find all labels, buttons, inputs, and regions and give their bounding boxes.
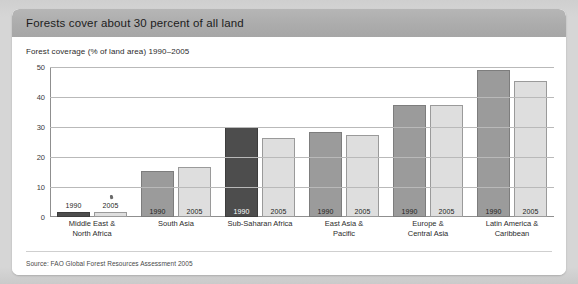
- bar[interactable]: 1990: [141, 171, 174, 218]
- bar[interactable]: 1990: [477, 70, 510, 217]
- bar-year-label: 1990: [226, 208, 257, 215]
- bar[interactable]: 2005: [178, 167, 211, 217]
- bar[interactable]: 2005: [262, 138, 295, 218]
- bars: 19902005: [386, 67, 470, 217]
- bars: 19902005: [470, 67, 554, 217]
- y-tick-label: 30: [37, 123, 45, 132]
- bar[interactable]: 2005: [514, 81, 547, 218]
- bars: 19902005: [134, 67, 218, 217]
- bar-group: 19902005: [218, 67, 302, 217]
- bar-year-label: 1990: [58, 202, 89, 209]
- bar-year-label: 2005: [263, 208, 294, 215]
- bar-group: 19902005: [386, 67, 470, 217]
- card-header: Forests cover about 30 percent of all la…: [12, 9, 566, 37]
- bar-year-label: 1990: [310, 208, 341, 215]
- bar[interactable]: 1990: [57, 212, 90, 217]
- category-label: South Asia: [134, 219, 218, 238]
- category-label: Europe & Central Asia: [386, 219, 470, 238]
- figure-card: Forests cover about 30 percent of all la…: [12, 9, 566, 275]
- bar-year-label: 1990: [478, 208, 509, 215]
- bar-groups: 1990200519902005199020051990200519902005…: [50, 67, 554, 217]
- bar[interactable]: 2005: [346, 135, 379, 217]
- gridline: [50, 67, 554, 68]
- bar-year-label: 2005: [347, 208, 378, 215]
- footer-divider: [26, 251, 552, 252]
- category-label: East Asia & Pacific: [302, 219, 386, 238]
- bar-year-label: 1990: [394, 208, 425, 215]
- bar-year-label: 2005: [515, 208, 546, 215]
- y-tick-label: 40: [37, 93, 45, 102]
- bar[interactable]: 1990: [393, 105, 426, 218]
- bars: 19902005: [218, 67, 302, 217]
- y-tick-label: 0: [41, 213, 45, 222]
- plot-area: 1990200519902005199020051990200519902005…: [50, 67, 554, 217]
- source-note: Source: FAO Global Forest Resources Asse…: [26, 260, 193, 267]
- scan-speck-mark: [109, 194, 113, 199]
- category-label: Sub-Saharan Africa: [218, 219, 302, 238]
- chart-subtitle: Forest coverage (% of land area) 1990–20…: [26, 47, 189, 56]
- page-backdrop: Forests cover about 30 percent of all la…: [0, 0, 578, 284]
- category-label: Middle East & North Africa: [50, 219, 134, 238]
- bar-year-label: 2005: [179, 208, 210, 215]
- y-tick-label: 20: [37, 153, 45, 162]
- gridline: [50, 187, 554, 188]
- bar[interactable]: 1990: [309, 132, 342, 217]
- bar[interactable]: 2005: [430, 105, 463, 218]
- bar-year-label: 1990: [142, 208, 173, 215]
- bar-group: 19902005: [50, 67, 134, 217]
- bar-group: 19902005: [302, 67, 386, 217]
- bars: 19902005: [302, 67, 386, 217]
- bar-group: 19902005: [470, 67, 554, 217]
- bar-chart: 01020304050 1990200519902005199020051990…: [26, 67, 554, 235]
- bar-year-label: 2005: [431, 208, 462, 215]
- bar-year-label: 2005: [95, 202, 126, 209]
- bars: 19902005: [50, 67, 134, 217]
- card-body: Forest coverage (% of land area) 1990–20…: [12, 37, 566, 275]
- gridline: [50, 127, 554, 128]
- gridline: [50, 157, 554, 158]
- y-tick-label: 10: [37, 183, 45, 192]
- bar[interactable]: 1990: [225, 127, 258, 217]
- gridline: [50, 97, 554, 98]
- y-tick-label: 50: [37, 63, 45, 72]
- bar-group: 19902005: [134, 67, 218, 217]
- category-labels: Middle East & North AfricaSouth AsiaSub-…: [50, 219, 554, 238]
- bar[interactable]: 2005: [94, 212, 127, 217]
- y-axis: 01020304050: [26, 67, 50, 227]
- category-label: Latin America & Caribbean: [470, 219, 554, 238]
- page-title: Forests cover about 30 percent of all la…: [26, 17, 244, 29]
